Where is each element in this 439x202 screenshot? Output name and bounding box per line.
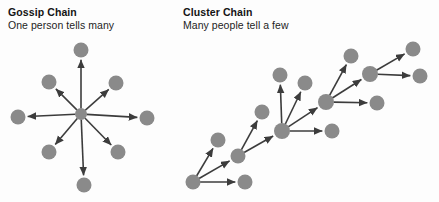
- cluster-node: [186, 175, 201, 190]
- cluster-node: [318, 94, 334, 110]
- gossip-arrow: [55, 118, 77, 144]
- gossip-node: [111, 145, 126, 160]
- cluster-node: [325, 124, 340, 139]
- gossip-arrow: [28, 114, 76, 116]
- cluster-node: [370, 96, 385, 111]
- gossip-node: [109, 76, 124, 91]
- cluster-node: [255, 105, 270, 120]
- gossip-node: [42, 145, 57, 160]
- network-diagram-graphic: [0, 0, 439, 202]
- gossip-node: [140, 111, 155, 126]
- gossip-node: [75, 108, 87, 120]
- gossip-arrow: [86, 114, 137, 117]
- cluster-node: [273, 68, 288, 83]
- gossip-arrow: [85, 118, 111, 145]
- cluster-arrow: [377, 74, 410, 75]
- cluster-node: [274, 123, 290, 139]
- gossip-arrow: [85, 89, 109, 110]
- gossip-node: [77, 178, 92, 193]
- cluster-chain-edges: [197, 54, 411, 182]
- cluster-arrow: [333, 102, 367, 103]
- gossip-arrow: [56, 89, 77, 110]
- cluster-arrow: [376, 54, 404, 70]
- cluster-node: [344, 49, 359, 64]
- cluster-arrow: [280, 85, 281, 124]
- diagram-canvas: Gossip Chain One person tells many Clust…: [0, 0, 439, 202]
- gossip-node: [74, 43, 89, 58]
- cluster-node: [362, 66, 378, 82]
- cluster-node: [406, 42, 421, 57]
- cluster-node: [211, 133, 226, 148]
- gossip-arrow: [81, 119, 83, 175]
- gossip-node: [42, 75, 57, 90]
- cluster-node: [413, 69, 428, 84]
- cluster-node: [298, 76, 313, 91]
- gossip-node: [11, 110, 26, 125]
- cluster-node: [238, 175, 253, 190]
- cluster-node: [231, 149, 246, 164]
